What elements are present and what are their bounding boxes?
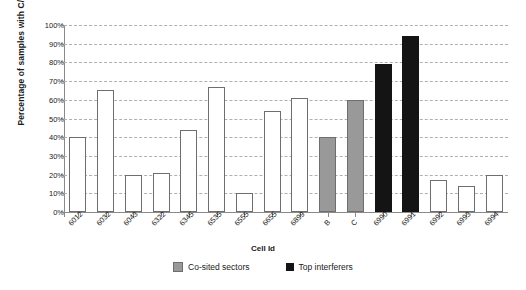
bar-6899[interactable] xyxy=(291,98,308,212)
legend-item[interactable]: Co-sited sectors xyxy=(173,262,249,272)
bar-slot xyxy=(120,25,148,212)
bar-slot xyxy=(203,25,231,212)
bar-chart: Percentage of samples with C/I < 9 dB 10… xyxy=(0,0,526,290)
y-tick-label: 30% xyxy=(18,151,64,160)
bar-6012[interactable] xyxy=(69,137,86,212)
bar-slot xyxy=(369,25,397,212)
x-label-cell: 6555 xyxy=(231,218,259,246)
bar-series xyxy=(64,25,508,212)
x-label-cell: 6012 xyxy=(64,218,92,246)
legend-swatch-icon xyxy=(286,263,294,271)
bar-slot xyxy=(258,25,286,212)
x-axis-labels: 601260326043632263456535655566556899BC69… xyxy=(64,218,508,246)
bar-6991[interactable] xyxy=(402,36,419,212)
x-label-cell: 6899 xyxy=(286,218,314,246)
legend-swatch-icon xyxy=(173,262,183,272)
y-tick-label: 50% xyxy=(18,114,64,123)
x-tick-mark xyxy=(314,212,342,217)
bar-slot xyxy=(147,25,175,212)
x-label-cell: 6993 xyxy=(453,218,481,246)
y-tick-label: 70% xyxy=(18,77,64,86)
x-label-cell: C xyxy=(342,218,370,246)
bar-slot xyxy=(92,25,120,212)
x-label-cell: 6655 xyxy=(258,218,286,246)
y-tick-label: 10% xyxy=(18,189,64,198)
bar-6032[interactable] xyxy=(97,90,114,212)
legend-label: Co-sited sectors xyxy=(188,262,249,272)
x-tick-mark xyxy=(342,212,370,217)
bar-slot xyxy=(342,25,370,212)
bar-B[interactable] xyxy=(319,137,336,212)
y-axis-ticks: 100%90%80%70%60%50%40%30%20%10%0% xyxy=(14,25,64,212)
x-tick-label: C xyxy=(349,217,359,227)
x-label-cell: 6991 xyxy=(397,218,425,246)
x-label-cell: 6345 xyxy=(175,218,203,246)
chart-legend: Co-sited sectorsTop interferers xyxy=(0,262,526,272)
x-label-cell: 6535 xyxy=(203,218,231,246)
bar-slot xyxy=(231,25,259,212)
y-tick-label: 40% xyxy=(18,133,64,142)
bar-C[interactable] xyxy=(347,100,364,212)
bar-slot xyxy=(480,25,508,212)
x-label-cell: 6322 xyxy=(147,218,175,246)
x-label-cell: 6992 xyxy=(425,218,453,246)
bar-slot xyxy=(425,25,453,212)
bar-slot xyxy=(175,25,203,212)
bar-6990[interactable] xyxy=(375,64,392,212)
x-label-cell: B xyxy=(314,218,342,246)
y-tick-label: 90% xyxy=(18,39,64,48)
y-tick-label: 100% xyxy=(18,21,64,30)
bar-6994[interactable] xyxy=(486,175,503,212)
bar-6993[interactable] xyxy=(458,186,475,212)
bar-slot xyxy=(286,25,314,212)
plot-area xyxy=(64,25,508,212)
x-label-cell: 6994 xyxy=(480,218,508,246)
bar-slot xyxy=(453,25,481,212)
bar-6655[interactable] xyxy=(264,111,281,212)
y-tick-label: 0% xyxy=(18,208,64,217)
x-label-cell: 6990 xyxy=(369,218,397,246)
bar-slot xyxy=(314,25,342,212)
bar-6535[interactable] xyxy=(208,87,225,212)
x-axis-title: Cell Id xyxy=(0,244,526,253)
bar-6043[interactable] xyxy=(125,175,142,212)
bar-6345[interactable] xyxy=(180,130,197,212)
legend-label: Top interferers xyxy=(299,262,353,272)
y-tick-label: 80% xyxy=(18,58,64,67)
bar-6992[interactable] xyxy=(430,180,447,212)
bar-6322[interactable] xyxy=(153,173,170,212)
y-tick-label: 20% xyxy=(18,170,64,179)
x-tick-label: B xyxy=(322,218,332,228)
bar-slot xyxy=(397,25,425,212)
y-tick-label: 60% xyxy=(18,95,64,104)
legend-item[interactable]: Top interferers xyxy=(286,262,353,272)
x-label-cell: 6043 xyxy=(120,218,148,246)
bar-slot xyxy=(64,25,92,212)
x-label-cell: 6032 xyxy=(92,218,120,246)
